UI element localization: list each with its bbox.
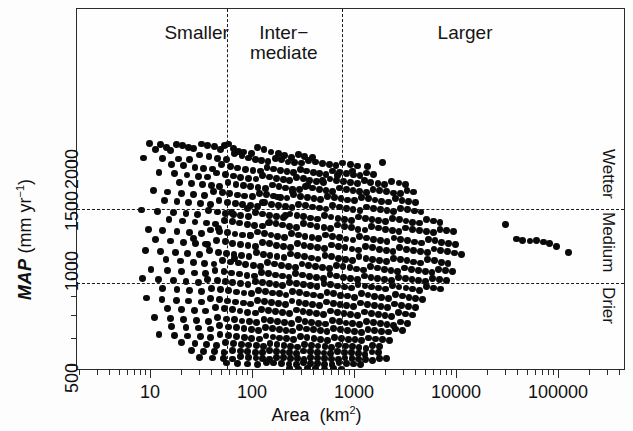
data-point <box>286 223 293 230</box>
data-point <box>402 225 409 232</box>
data-point <box>224 199 231 206</box>
x-axis-minor-tick <box>487 370 488 375</box>
data-point <box>546 240 553 247</box>
data-point <box>215 249 222 256</box>
data-point <box>184 172 191 179</box>
data-point <box>272 308 279 315</box>
data-point <box>303 326 310 333</box>
x-axis-minor-tick <box>440 370 441 375</box>
data-point <box>203 341 210 348</box>
data-point <box>261 230 268 237</box>
y-axis-minor-tick <box>71 338 76 339</box>
data-point <box>204 276 211 283</box>
data-point <box>146 140 153 147</box>
data-point <box>212 267 219 274</box>
data-point <box>402 275 409 282</box>
data-point <box>288 320 295 327</box>
data-point <box>382 218 389 225</box>
data-point <box>192 164 199 171</box>
x-axis-minor-tick <box>433 370 434 375</box>
x-axis-unit-close: ) <box>356 405 362 425</box>
data-point <box>405 303 412 310</box>
data-point <box>327 271 334 278</box>
x-axis-minor-tick <box>119 370 120 375</box>
data-point <box>323 299 330 306</box>
data-point <box>306 309 313 316</box>
data-point <box>363 235 370 242</box>
data-point <box>247 301 254 308</box>
y-axis-title: MAP (mm yr−1) <box>14 179 36 300</box>
data-point <box>159 155 166 162</box>
data-point <box>229 218 236 225</box>
data-point <box>269 290 276 297</box>
data-point <box>565 249 572 256</box>
data-point <box>208 285 215 292</box>
data-point <box>320 311 327 318</box>
data-point <box>267 317 274 324</box>
data-point <box>343 302 350 309</box>
data-point <box>315 320 322 327</box>
data-point <box>375 180 382 187</box>
data-point <box>168 323 175 330</box>
data-point <box>334 309 341 316</box>
data-point <box>375 217 382 224</box>
y-axis-unit-close: ) <box>15 179 35 185</box>
data-point <box>365 335 372 342</box>
data-point <box>266 212 273 219</box>
data-point <box>411 239 418 246</box>
data-point <box>321 224 328 231</box>
data-point <box>283 327 290 334</box>
data-point <box>256 336 263 343</box>
data-point <box>244 361 251 368</box>
data-point <box>263 359 270 366</box>
top-region-label: Larger <box>390 23 540 43</box>
data-point <box>143 295 150 302</box>
data-point <box>382 312 389 319</box>
data-point <box>156 331 163 338</box>
x-axis-minor-tick <box>134 370 135 375</box>
data-point <box>334 222 341 229</box>
y-axis-minor-tick <box>71 315 76 316</box>
data-point <box>297 193 304 200</box>
data-point <box>309 301 316 308</box>
data-point <box>296 289 303 296</box>
data-point <box>294 252 301 259</box>
data-point <box>186 287 193 294</box>
data-point <box>255 327 262 334</box>
data-point <box>259 199 266 206</box>
data-point <box>233 333 240 340</box>
data-point <box>396 180 403 187</box>
data-point <box>274 233 281 240</box>
data-point <box>365 326 372 333</box>
data-point <box>324 328 331 335</box>
data-point <box>409 226 416 233</box>
data-point <box>196 251 203 258</box>
data-point <box>445 240 452 247</box>
data-point <box>316 186 323 193</box>
data-point <box>396 244 403 251</box>
data-point <box>264 164 271 171</box>
data-point <box>349 246 356 253</box>
data-point <box>188 347 195 354</box>
data-point <box>245 155 252 162</box>
x-axis-unit-open: (km <box>319 405 349 425</box>
data-point <box>279 273 286 280</box>
data-point <box>269 325 276 332</box>
data-point <box>356 321 363 328</box>
data-point <box>178 306 185 313</box>
data-point <box>419 296 426 303</box>
data-point <box>365 195 372 202</box>
x-axis-minor-tick <box>236 370 237 375</box>
data-point <box>388 267 395 274</box>
data-point <box>309 234 316 241</box>
data-point <box>396 284 403 291</box>
data-point <box>278 262 285 269</box>
data-point <box>262 288 269 295</box>
data-point <box>379 159 386 166</box>
data-point <box>273 175 280 182</box>
data-point <box>347 275 354 282</box>
data-point <box>233 324 240 331</box>
data-point <box>345 336 352 343</box>
data-point <box>334 172 341 179</box>
data-point <box>234 165 241 172</box>
